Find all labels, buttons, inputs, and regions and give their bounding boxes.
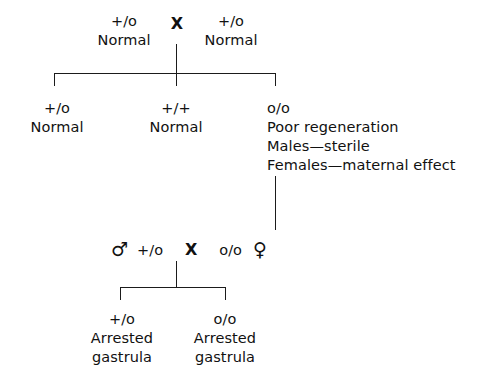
f1-bracket-stub-left xyxy=(54,73,55,86)
f1-offspring-2-phenotype: Normal xyxy=(149,118,202,137)
pedigree-diagram: +/o Normal X +/o Normal +/o Normal +/+ N… xyxy=(0,0,486,384)
f2-bracket-stub-left xyxy=(120,287,121,300)
f2-offspring-2: o/o Arrested gastrula xyxy=(194,310,256,367)
f1-offspring-3-trait-1: Poor regeneration xyxy=(267,118,456,137)
f1-offspring-1: +/o Normal xyxy=(30,99,83,137)
parent-right-phenotype: Normal xyxy=(204,31,257,50)
second-cross-descender xyxy=(176,261,177,287)
female-icon: ♀ xyxy=(253,238,267,260)
cross-symbol-f1: X xyxy=(185,240,197,259)
f2-offspring-1-phenotype-line1: Arrested xyxy=(91,329,153,348)
f2-offspring-1: +/o Arrested gastrula xyxy=(91,310,153,367)
second-cross-male-genotype: +/o xyxy=(137,242,163,258)
parent-left: +/o Normal xyxy=(97,12,150,50)
f1-offspring-3-trait-3: Females—maternal effect xyxy=(267,156,456,175)
f1-offspring-3-trait-2: Males—sterile xyxy=(267,137,456,156)
parent-right-genotype: +/o xyxy=(204,12,257,31)
f2-offspring-2-genotype: o/o xyxy=(194,310,256,329)
f1-bracket-stub-right xyxy=(275,73,276,86)
f1-offspring-3-genotype: o/o xyxy=(267,99,456,118)
male-icon: ♂ xyxy=(111,238,128,260)
f1-bracket-horizontal xyxy=(54,73,276,74)
f1-offspring-1-genotype: +/o xyxy=(30,99,83,118)
f1-offspring-3: o/o Poor regeneration Males—sterile Fema… xyxy=(267,99,456,174)
parent-right: +/o Normal xyxy=(204,12,257,50)
f2-offspring-1-phenotype-line2: gastrula xyxy=(91,348,153,367)
f1-offspring-2-genotype: +/+ xyxy=(149,99,202,118)
p-cross-descender xyxy=(176,44,177,74)
f1-offspring-1-phenotype: Normal xyxy=(30,118,83,137)
f2-offspring-2-phenotype-line1: Arrested xyxy=(194,329,256,348)
parent-left-genotype: +/o xyxy=(97,12,150,31)
f2-offspring-2-phenotype-line2: gastrula xyxy=(194,348,256,367)
second-cross-female-genotype: o/o xyxy=(219,242,242,258)
f1-to-second-cross-line xyxy=(275,176,276,230)
f2-bracket-horizontal xyxy=(120,287,225,288)
f2-offspring-1-genotype: +/o xyxy=(91,310,153,329)
f1-offspring-2: +/+ Normal xyxy=(149,99,202,137)
f1-bracket-stub-center xyxy=(176,73,177,86)
f2-bracket-stub-right xyxy=(225,287,226,300)
cross-symbol-p: X xyxy=(171,16,183,32)
second-cross-row: ♂+/oXo/o♀ xyxy=(111,240,267,259)
parent-left-phenotype: Normal xyxy=(97,31,150,50)
